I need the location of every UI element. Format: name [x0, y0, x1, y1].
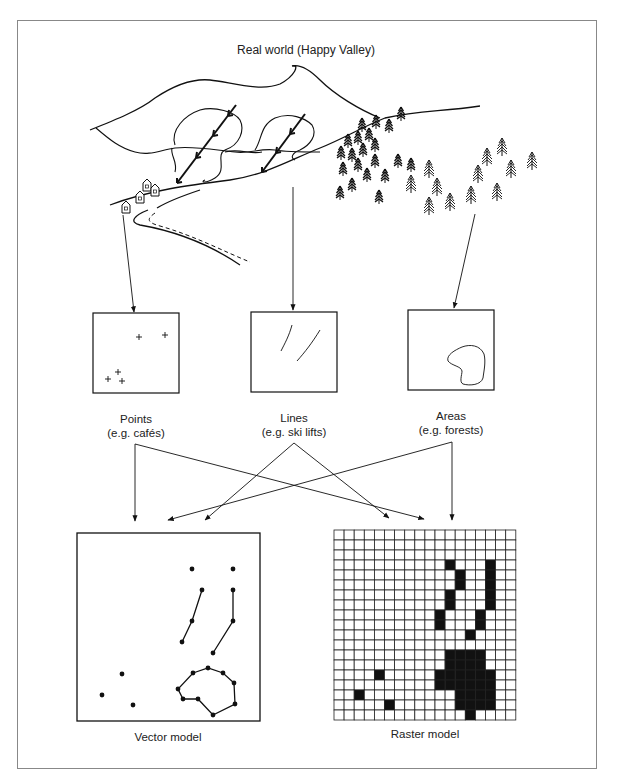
raster-cell	[435, 550, 445, 560]
points-box	[93, 313, 179, 393]
raster-cell	[334, 710, 344, 720]
raster-cell	[344, 670, 354, 680]
raster-model-label: Raster model	[375, 727, 475, 741]
raster-cell	[385, 590, 395, 600]
diagram-title: Real world (Happy Valley)	[216, 43, 396, 57]
raster-cell	[334, 690, 344, 700]
raster-cell	[405, 590, 415, 600]
raster-cell	[475, 550, 485, 560]
raster-cell	[425, 560, 435, 570]
raster-cell	[475, 650, 485, 660]
raster-cell	[405, 560, 415, 570]
raster-cell	[465, 640, 475, 650]
raster-cell	[405, 610, 415, 620]
raster-cell	[395, 600, 405, 610]
raster-cell	[475, 580, 485, 590]
raster-cell	[455, 700, 465, 710]
raster-cell	[344, 710, 354, 720]
raster-cell	[415, 700, 425, 710]
raster-cell	[354, 710, 364, 720]
raster-cell	[506, 530, 516, 540]
raster-cell	[385, 690, 395, 700]
raster-cell	[506, 630, 516, 640]
raster-cell	[385, 680, 395, 690]
raster-cell	[395, 690, 405, 700]
areas-label: Areas (e.g. forests)	[401, 409, 501, 437]
raster-cell	[354, 620, 364, 630]
raster-cell	[374, 550, 384, 560]
raster-cell	[486, 660, 496, 670]
raster-cell	[385, 700, 395, 710]
raster-cell	[354, 650, 364, 660]
raster-cell	[455, 630, 465, 640]
raster-cell	[354, 630, 364, 640]
raster-cell	[506, 690, 516, 700]
raster-cell	[385, 640, 395, 650]
raster-cell	[506, 620, 516, 630]
raster-cell	[374, 710, 384, 720]
raster-cell	[506, 670, 516, 680]
raster-cell	[334, 590, 344, 600]
raster-cell	[425, 580, 435, 590]
raster-cell	[455, 610, 465, 620]
raster-cell	[425, 620, 435, 630]
raster-cell	[435, 710, 445, 720]
raster-cell	[344, 570, 354, 580]
raster-cell	[506, 540, 516, 550]
raster-cell	[374, 650, 384, 660]
raster-cell	[364, 660, 374, 670]
raster-cell	[486, 670, 496, 680]
raster-cell	[415, 540, 425, 550]
raster-cell	[354, 550, 364, 560]
raster-cell	[395, 670, 405, 680]
raster-cell	[445, 570, 455, 580]
raster-cell	[405, 650, 415, 660]
raster-cell	[405, 620, 415, 630]
raster-cell	[374, 570, 384, 580]
raster-cell	[435, 670, 445, 680]
raster-cell	[425, 570, 435, 580]
raster-cell	[334, 680, 344, 690]
raster-cell	[334, 560, 344, 570]
raster-cell	[465, 710, 475, 720]
raster-model-grid	[334, 530, 516, 720]
raster-cell	[496, 610, 506, 620]
raster-cell	[344, 560, 354, 570]
raster-cell	[445, 550, 455, 560]
raster-cell	[374, 530, 384, 540]
raster-cell	[354, 640, 364, 650]
raster-cell	[486, 690, 496, 700]
raster-cell	[344, 660, 354, 670]
raster-cell	[395, 550, 405, 560]
raster-cell	[455, 690, 465, 700]
vector-model-box	[77, 533, 260, 721]
raster-cell	[344, 640, 354, 650]
raster-cell	[425, 530, 435, 540]
raster-cell	[354, 600, 364, 610]
raster-cell	[425, 660, 435, 670]
raster-cell	[475, 610, 485, 620]
raster-cell	[435, 680, 445, 690]
raster-cell	[354, 560, 364, 570]
raster-cell	[496, 620, 506, 630]
raster-cell	[334, 580, 344, 590]
raster-cell	[344, 690, 354, 700]
raster-cell	[354, 580, 364, 590]
raster-cell	[385, 710, 395, 720]
raster-cell	[465, 620, 475, 630]
raster-cell	[364, 630, 374, 640]
raster-cell	[425, 610, 435, 620]
raster-cell	[405, 630, 415, 640]
raster-cell	[395, 570, 405, 580]
raster-cell	[486, 610, 496, 620]
raster-cell	[425, 590, 435, 600]
raster-cell	[364, 550, 374, 560]
raster-cell	[364, 710, 374, 720]
raster-cell	[425, 670, 435, 680]
raster-cell	[354, 690, 364, 700]
raster-cell	[445, 680, 455, 690]
raster-cell	[435, 610, 445, 620]
raster-cell	[435, 560, 445, 570]
raster-cell	[344, 530, 354, 540]
raster-cell	[364, 640, 374, 650]
